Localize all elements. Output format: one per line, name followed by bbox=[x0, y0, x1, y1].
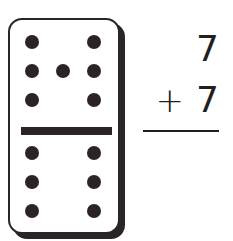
plus-sign: + bbox=[156, 82, 185, 118]
domino-pip-bottom bbox=[25, 175, 39, 189]
domino-pip-top bbox=[87, 93, 101, 107]
domino-pip-top bbox=[25, 93, 39, 107]
addend-one: 7 bbox=[196, 31, 219, 67]
domino-pip-bottom bbox=[87, 175, 101, 189]
addend-two-row: + 7 bbox=[156, 82, 219, 118]
sum-line bbox=[143, 130, 219, 132]
domino-pip-bottom bbox=[87, 146, 101, 160]
domino-pip-bottom bbox=[87, 204, 101, 218]
domino-pip-bottom bbox=[25, 204, 39, 218]
domino-pip-bottom bbox=[25, 146, 39, 160]
domino-divider bbox=[21, 127, 112, 135]
domino-pip-top bbox=[56, 64, 70, 78]
domino-pip-top bbox=[87, 35, 101, 49]
domino-pip-top bbox=[25, 35, 39, 49]
domino bbox=[8, 18, 120, 234]
domino-pip-top bbox=[25, 64, 39, 78]
addend-two: 7 bbox=[196, 82, 219, 118]
domino-pip-top bbox=[87, 64, 101, 78]
